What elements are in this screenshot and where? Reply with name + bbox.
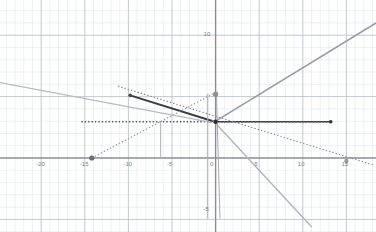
point-endpoint-upper-left[interactable] — [128, 94, 132, 98]
point-point-on-xaxis-left[interactable] — [89, 155, 94, 160]
y-tick-label: 10 — [204, 31, 211, 38]
point-vertex-origin[interactable] — [213, 120, 217, 124]
x-tick-label: 5 — [254, 161, 257, 168]
series-vertical-drop-right — [216, 94, 219, 218]
point-vertex-origin-upper[interactable] — [213, 92, 218, 97]
x-tick-label: -10 — [123, 161, 132, 168]
x-tick-label: -5 — [167, 161, 172, 168]
x-tick-label: 10 — [298, 161, 305, 168]
series-dotted-descending-long — [118, 86, 373, 165]
coordinate-plot — [0, 0, 376, 232]
series-gray-descending-ray — [213, 121, 312, 227]
x-tick-label: -20 — [36, 161, 45, 168]
series-layer — [0, 23, 376, 227]
graph-canvas: 5-20-15-10-505101510-5 — [0, 0, 376, 232]
series-gray-line-lower-left — [0, 82, 211, 123]
y-tick-label: -5 — [204, 206, 209, 213]
x-tick-label: -15 — [80, 161, 89, 168]
x-tick-label: 0 — [210, 161, 213, 168]
x-tick-label: 15 — [341, 161, 348, 168]
point-endpoint-right[interactable] — [329, 120, 333, 124]
grid-layer — [0, 0, 376, 232]
